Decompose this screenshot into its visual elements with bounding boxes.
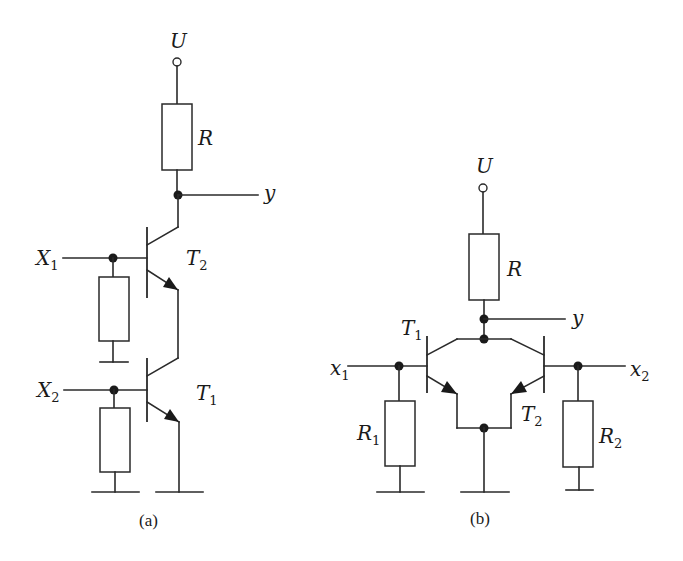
transistor-label-t2-a: T2 [186, 246, 208, 273]
transistor-label-t1-b: T1 [401, 316, 423, 343]
emitter-arrow-icon [441, 381, 457, 394]
load-resistor-a [162, 104, 192, 170]
transistor-label-t2-b: T2 [521, 402, 543, 429]
resistor-label-a: R [197, 126, 213, 150]
circuit-diagram: U R y T2 X1 T1 X2 [0, 0, 683, 561]
supply-terminal-b [479, 184, 487, 192]
input-resistor-r1-b [385, 401, 415, 466]
supply-terminal-a [173, 58, 181, 66]
t2-collector-a [147, 227, 178, 245]
input-label-x1-a: X1 [34, 246, 59, 273]
t1-collector-a [147, 358, 178, 376]
load-resistor-b [469, 234, 499, 300]
emitter-arrow-icon [163, 277, 178, 290]
emitter-arrow-icon [511, 381, 527, 394]
resistor-label-r1-b: R1 [356, 421, 380, 448]
emitter-arrow-icon [164, 409, 179, 422]
input-resistor-r2-b [563, 401, 593, 467]
supply-label-b: U [476, 154, 494, 178]
base-resistor-2-a [100, 408, 130, 472]
panel-caption-a: (a) [139, 511, 158, 530]
transistor-label-t1-a: T1 [196, 381, 218, 408]
input-label-x2-a: X2 [35, 378, 60, 405]
base-resistor-1-a [99, 277, 129, 341]
panel-caption-b: (b) [470, 509, 490, 528]
output-label-b: y [571, 306, 584, 330]
input-label-x1-b: x1 [330, 356, 350, 383]
panel-a-series-and-gate: U R y T2 X1 T1 X2 [34, 29, 276, 530]
input-label-x2-b: x2 [630, 357, 650, 384]
resistor-label-r2-b: R2 [598, 424, 622, 451]
panel-b-parallel-or-gate: U R y T1 T2 x1 R [330, 154, 650, 528]
output-label-a: y [263, 181, 276, 205]
supply-label-a: U [170, 29, 188, 53]
resistor-label-b: R [506, 257, 522, 281]
t2-collector-b [511, 339, 544, 355]
t1-collector-b [427, 339, 457, 355]
